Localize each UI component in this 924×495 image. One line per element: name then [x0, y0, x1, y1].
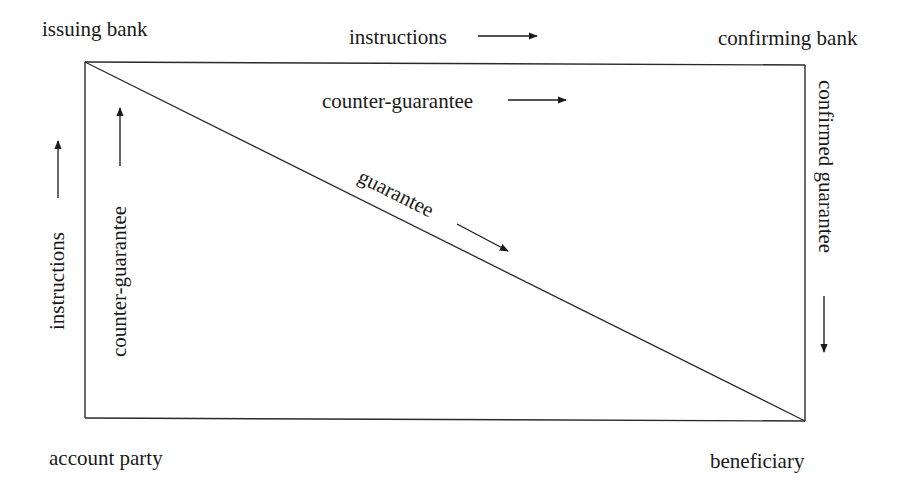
edge-label-right-confirmed-guarantee: confirmed guarantee: [815, 80, 836, 253]
edge-label-top-instructions: instructions: [349, 27, 447, 48]
diagram-canvas: [0, 0, 924, 495]
node-beneficiary: beneficiary: [710, 451, 804, 472]
edge-diagonal: [85, 62, 805, 421]
node-issuing-bank: issuing bank: [42, 19, 148, 40]
edge-label-top-counter-guarantee: counter-guarantee: [322, 91, 473, 112]
node-account-party: account party: [49, 448, 163, 469]
edge-bottom: [85, 418, 805, 421]
edge-top: [85, 62, 805, 65]
node-confirming-bank: confirming bank: [718, 28, 857, 49]
arrow-down-right-icon: [457, 224, 508, 251]
edge-label-left-instructions: instructions: [47, 232, 68, 330]
edge-label-left-counter-guarantee: counter-guarantee: [109, 206, 130, 357]
relationship-rectangle: [85, 62, 805, 421]
